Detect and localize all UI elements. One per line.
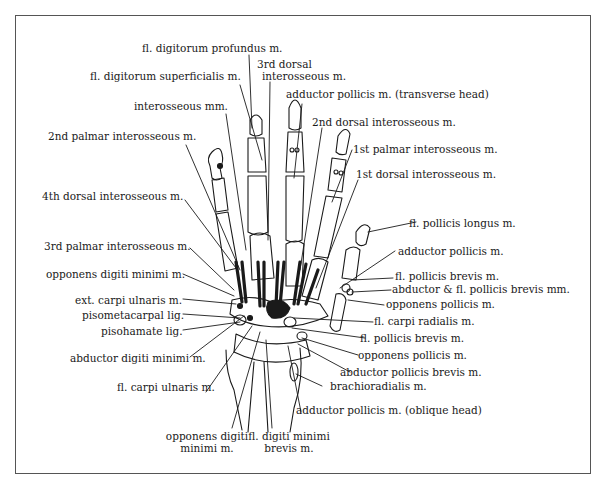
label-ext-carpi-ulnaris: ext. carpi ulnaris m. <box>75 294 182 306</box>
label-pisometacarpal-lig: pisometacarpal lig. <box>82 309 184 321</box>
label-1st-dorsal-interosseous: 1st dorsal interosseous m. <box>356 168 496 180</box>
label-fl-carpi-radialis: fl. carpi radialis m. <box>374 315 475 327</box>
thumb-bones <box>330 225 370 332</box>
label-opponens-pollicis-lower: opponens pollicis m. <box>358 349 467 361</box>
label-4th-dorsal-interosseous: 4th dorsal interosseous m. <box>42 190 183 202</box>
label-abductor-digiti-minimi: abductor digiti minimi m. <box>70 352 206 364</box>
label-fl-pollicis-brevis-lower: fl. pollicis brevis m. <box>360 332 464 344</box>
label-brachioradialis: brachioradialis m. <box>330 380 427 392</box>
label-adductor-pollicis: adductor pollicis m. <box>398 245 504 257</box>
label-opponens-digiti-minimi: opponens digiti minimi m. <box>46 268 185 280</box>
label-3rd-palmar-interosseous: 3rd palmar interosseous m. <box>44 240 191 252</box>
label-2nd-dorsal-interosseous: 2nd dorsal interosseous m. <box>312 116 456 128</box>
label-opponens-pollicis-upper: opponens pollicis m. <box>386 298 495 310</box>
ring-finger-bones <box>248 115 274 280</box>
label-1st-palmar-interosseous: 1st palmar interosseous m. <box>353 143 498 155</box>
label-fl-digiti-minimi-brevis-line2: brevis m. <box>244 442 334 454</box>
label-pisohamate-lig: pisohamate lig. <box>101 325 183 337</box>
label-2nd-palmar-interosseous: 2nd palmar interosseous m. <box>48 130 196 142</box>
label-adductor-pollicis-oblique: adductor pollicis m. (oblique head) <box>296 404 482 416</box>
label-fl-pollicis-longus: fl. pollicis longus m. <box>409 217 516 229</box>
label-fl-pollicis-brevis-upper: fl. pollicis brevis m. <box>395 270 499 282</box>
label-fl-digiti-minimi-brevis-line1: fl. digiti minimi <box>244 430 334 442</box>
label-abductor-pollicis-brevis: abductor pollicis brevis m. <box>340 366 482 378</box>
label-fl-digitorum-superficialis: fl. digitorum superficialis m. <box>90 70 241 82</box>
label-interosseous-mm: interosseous mm. <box>134 100 228 112</box>
middle-finger-bones <box>286 100 304 286</box>
label-fl-digitorum-profundus: fl. digitorum profundus m. <box>142 42 282 54</box>
label-fl-carpi-ulnaris: fl. carpi ulnaris m. <box>117 381 215 393</box>
label-3rd-dorsal-interosseous-line2: interosseous m. <box>262 70 346 82</box>
label-adductor-pollicis-transverse: adductor pollicis m. (transverse head) <box>286 88 489 100</box>
label-3rd-dorsal-interosseous-line1: 3rd dorsal <box>257 58 312 70</box>
label-abductor-fl-pollicis-brevis: abductor & fl. pollicis brevis mm. <box>392 283 570 295</box>
